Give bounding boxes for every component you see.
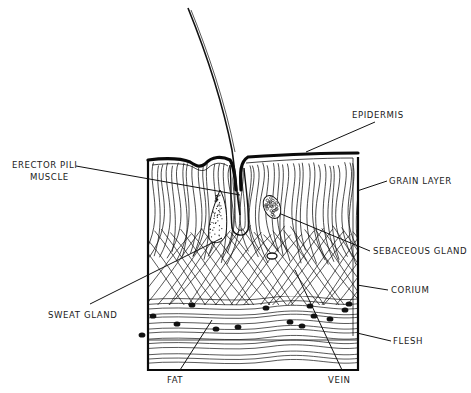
fat-cell: [342, 307, 349, 312]
label-sebaceous-gland: SEBACEOUS GLAND: [373, 245, 467, 256]
fat-cell: [327, 316, 334, 321]
fat-cell: [189, 302, 196, 307]
leader-grain-layer: [357, 181, 387, 191]
fat-cell: [174, 321, 181, 326]
label-sweat-gland: SWEAT GLAND: [48, 309, 117, 320]
label-grain-layer: GRAIN LAYER: [389, 175, 452, 186]
fat-cell: [299, 323, 306, 328]
label-epidermis: EPIDERMIS: [352, 109, 404, 120]
fat-cell: [346, 301, 353, 306]
flesh-layer-lines: [146, 296, 360, 364]
fat-cell: [150, 313, 157, 318]
vein-cross-section: [267, 253, 277, 259]
sweat-gland: [209, 190, 227, 243]
fat-cell: [287, 319, 294, 324]
fat-cell: [139, 332, 146, 337]
leader-corium: [357, 285, 388, 290]
skin-cross-section-illustration: EPIDERMIS GRAIN LAYER ERECTOR PILI MUSCL…: [0, 0, 471, 393]
label-erector-pili-muscle: MUSCLE: [30, 171, 69, 182]
fat-cell: [263, 305, 270, 310]
label-erector-pili: ERECTOR PILI: [12, 159, 77, 170]
fat-cell: [235, 324, 242, 329]
leader-epidermis: [306, 122, 375, 152]
label-vein: VEIN: [328, 374, 351, 385]
leader-flesh: [357, 333, 391, 341]
skin-diagram: EPIDERMIS GRAIN LAYER ERECTOR PILI MUSCL…: [0, 0, 471, 393]
fat-cell: [213, 326, 220, 331]
label-flesh: FLESH: [393, 335, 423, 346]
label-fat: FAT: [167, 374, 183, 385]
label-corium: CORIUM: [391, 284, 429, 295]
